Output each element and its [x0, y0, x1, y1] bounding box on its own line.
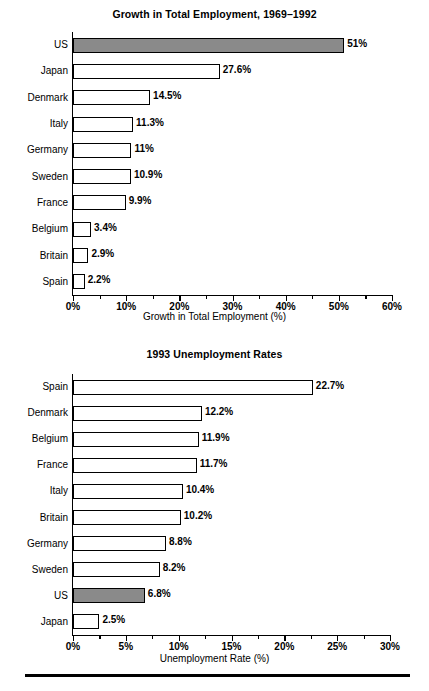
bar-row: US6.8% [73, 583, 390, 609]
bar-value-label: 2.5% [102, 615, 125, 625]
bar-category-label: France [37, 460, 68, 470]
x-axis-minor-tick [311, 635, 312, 639]
x-axis-tick-label: 30% [380, 642, 400, 652]
bar-category-label: Sweden [32, 565, 68, 575]
bar-value-label: 11.9% [202, 433, 230, 443]
bar: 8.8% [73, 536, 166, 551]
bar-value-label: 11.3% [136, 118, 164, 128]
bar-row: Belgium3.4% [73, 216, 392, 242]
bar: 14.5% [73, 90, 150, 105]
bar: 11.3% [73, 117, 133, 132]
bar-value-label: 27.6% [223, 65, 251, 75]
unemployment-bar-rows: Spain22.7%Denmark12.2%Belgium11.9%France… [73, 374, 390, 635]
x-axis-minor-tick [364, 635, 365, 639]
x-axis-tick-label: 10% [169, 642, 189, 652]
bar-value-label: 22.7% [316, 381, 344, 391]
bar-value-label: 8.8% [169, 537, 192, 547]
bar-value-label: 51% [347, 39, 367, 49]
unemployment-plot-area: Spain22.7%Denmark12.2%Belgium11.9%France… [72, 374, 390, 636]
bar: 10.9% [73, 169, 131, 184]
bar: 6.8% [73, 588, 145, 603]
bar: 2.9% [73, 248, 88, 263]
bar-row: Britain10.2% [73, 504, 390, 530]
bar: 2.5% [73, 614, 99, 629]
x-axis-minor-tick [312, 295, 313, 299]
bar-value-label: 2.2% [88, 275, 111, 285]
x-axis-tick-label: 0% [66, 642, 80, 652]
bar-row: Belgium11.9% [73, 426, 390, 452]
bar-category-label: Germany [27, 145, 68, 155]
x-axis-tick-label: 5% [119, 642, 133, 652]
page-footer-rule [25, 674, 410, 677]
bar-category-label: Denmark [27, 93, 68, 103]
bar-row: Germany11% [73, 137, 392, 163]
bar-category-label: Sweden [32, 172, 68, 182]
bar-value-label: 6.8% [148, 589, 171, 599]
unemployment-chart-title: 1993 Unemployment Rates [0, 348, 429, 360]
bar-row: Japan2.5% [73, 609, 390, 635]
x-axis-minor-tick [99, 635, 100, 639]
bar-category-label: Germany [27, 539, 68, 549]
x-axis-minor-tick [100, 295, 101, 299]
bar-value-label: 10.2% [184, 511, 212, 521]
x-axis-tick-label: 25% [327, 642, 347, 652]
bar-value-label: 11.7% [200, 459, 228, 469]
bar: 22.7% [73, 380, 313, 395]
growth-chart-figure: Growth in Total Employment, 1969–1992 US… [0, 0, 429, 340]
x-axis-minor-tick [152, 635, 153, 639]
unemployment-x-axis-title: Unemployment Rate (%) [0, 653, 429, 664]
x-axis-tick-label: 15% [221, 642, 241, 652]
bar-category-label: Japan [41, 617, 68, 627]
bar-row: Denmark12.2% [73, 400, 390, 426]
bar: 10.4% [73, 484, 183, 499]
bar: 2.2% [73, 274, 85, 289]
bar-row: France11.7% [73, 452, 390, 478]
bar-row: France9.9% [73, 190, 392, 216]
bar-category-label: Britain [40, 251, 68, 261]
x-axis-minor-tick [259, 295, 260, 299]
bar-value-label: 14.5% [153, 91, 181, 101]
bar-category-label: Britain [40, 513, 68, 523]
x-axis-minor-tick [258, 635, 259, 639]
bar-row: Spain2.2% [73, 269, 392, 295]
bar-category-label: France [37, 198, 68, 208]
bar-value-label: 9.9% [129, 196, 152, 206]
bar-category-label: Belgium [32, 434, 68, 444]
bar-row: Sweden10.9% [73, 163, 392, 189]
bar-value-label: 10.4% [186, 485, 214, 495]
unemployment-chart-figure: 1993 Unemployment Rates Spain22.7%Denmar… [0, 340, 429, 670]
bar-category-label: Belgium [32, 224, 68, 234]
bar-row: US51% [73, 32, 392, 58]
bar-row: Sweden8.2% [73, 557, 390, 583]
bar: 11.9% [73, 432, 199, 447]
bar: 12.2% [73, 406, 202, 421]
bar: 9.9% [73, 195, 126, 210]
bar-row: Britain2.9% [73, 242, 392, 268]
bar-row: Italy10.4% [73, 478, 390, 504]
bar-category-label: Italy [50, 119, 68, 129]
bar: 27.6% [73, 64, 220, 79]
bar: 10.2% [73, 510, 181, 525]
bar-row: Germany8.8% [73, 531, 390, 557]
bar-value-label: 11% [134, 144, 153, 154]
bar-row: Italy11.3% [73, 111, 392, 137]
growth-bar-rows: US51%Japan27.6%Denmark14.5%Italy11.3%Ger… [73, 32, 392, 295]
bar-category-label: Italy [50, 486, 68, 496]
bar: 8.2% [73, 562, 160, 577]
bar-row: Spain22.7% [73, 374, 390, 400]
bar-category-label: Spain [42, 382, 68, 392]
bar-value-label: 2.9% [91, 249, 114, 259]
bar-row: Japan27.6% [73, 58, 392, 84]
bar-value-label: 8.2% [163, 563, 186, 573]
x-axis-tick-label: 20% [274, 642, 294, 652]
growth-chart-title: Growth in Total Employment, 1969–1992 [0, 8, 429, 20]
growth-x-axis-title: Growth in Total Employment (%) [0, 311, 429, 322]
x-axis-minor-tick [365, 295, 366, 299]
bar-category-label: Spain [42, 277, 68, 287]
x-axis-minor-tick [205, 635, 206, 639]
bar: 51% [73, 38, 344, 53]
bar: 11% [73, 143, 131, 158]
bar-category-label: Japan [41, 66, 68, 76]
bar: 11.7% [73, 458, 197, 473]
bar-value-label: 10.9% [134, 170, 162, 180]
